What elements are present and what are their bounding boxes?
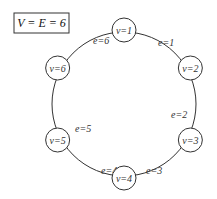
node-v2: v=2 xyxy=(178,56,202,80)
edge-label-e6: e=6 xyxy=(93,35,109,46)
title-box: V = E = 6 xyxy=(14,13,69,33)
node-label: v=5 xyxy=(50,135,66,146)
edge-label-e1: e=1 xyxy=(158,37,174,48)
node-label: v=6 xyxy=(50,63,66,74)
title-text: V = E = 6 xyxy=(17,16,66,30)
node-v1: v=1 xyxy=(112,18,136,42)
node-v6: v=6 xyxy=(46,56,70,80)
cycle-graph-diagram: V = E = 6 e=1e=2e=3e=4e=5e=6 v=1v=2v=3v=… xyxy=(0,0,217,199)
node-label: v=3 xyxy=(182,135,198,146)
node-v4: v=4 xyxy=(112,166,136,190)
node-label: v=2 xyxy=(182,63,198,74)
edge-label-e2: e=2 xyxy=(171,109,187,120)
node-v3: v=3 xyxy=(178,128,202,152)
node-v5: v=5 xyxy=(46,128,70,152)
node-label: v=4 xyxy=(116,173,132,184)
cycle-ring xyxy=(52,32,196,176)
edge-label-e5: e=5 xyxy=(75,123,91,134)
node-label: v=1 xyxy=(116,25,132,36)
edge-label-e3: e=3 xyxy=(146,165,162,176)
